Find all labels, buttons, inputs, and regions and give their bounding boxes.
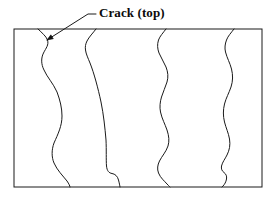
- crack-diagram-figure: Crack (top): [0, 0, 277, 201]
- diagram-canvas: [0, 0, 277, 201]
- arrowhead-icon: [47, 35, 53, 40]
- crack-line-2: [85, 29, 120, 187]
- specimen-outline: [14, 29, 262, 187]
- crack-line-3: [158, 29, 170, 187]
- crack-line-4: [221, 29, 234, 187]
- crack-top-label: Crack (top): [99, 6, 165, 20]
- crack-line-1: [38, 29, 70, 187]
- leader-line-icon: [47, 14, 96, 40]
